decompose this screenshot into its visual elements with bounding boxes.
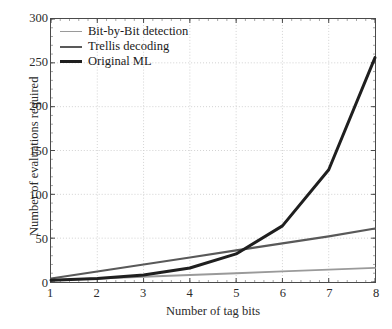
legend-item: Original ML (60, 54, 188, 69)
x-tick-label: 4 (187, 287, 193, 300)
legend-label: Bit-by-Bit detection (88, 25, 188, 38)
x-tick-label: 1 (47, 287, 53, 300)
x-tick-label: 5 (233, 287, 239, 300)
legend-item: Bit-by-Bit detection (60, 24, 188, 39)
legend-label: Original ML (88, 55, 152, 68)
y-tick-label: 300 (29, 12, 48, 25)
legend-line-swatch (60, 31, 82, 32)
x-tick-label: 3 (140, 287, 146, 300)
y-axis-title: Number of evaluations required (28, 56, 41, 256)
x-tick-label: 7 (326, 287, 332, 300)
legend-item: Trellis decoding (60, 39, 188, 54)
x-tick-label: 8 (373, 287, 379, 300)
legend-label: Trellis decoding (88, 40, 169, 53)
series-line (51, 229, 375, 279)
legend-line-swatch (60, 60, 82, 63)
legend-line-swatch (60, 46, 82, 48)
legend: Bit-by-Bit detectionTrellis decodingOrig… (58, 22, 192, 71)
series-line (51, 58, 375, 281)
x-axis-title: Number of tag bits (50, 305, 376, 318)
x-tick-label: 2 (93, 287, 99, 300)
chart-figure: 050100150200250300 12345678 Number of ta… (0, 0, 392, 329)
x-tick-label: 6 (280, 287, 286, 300)
